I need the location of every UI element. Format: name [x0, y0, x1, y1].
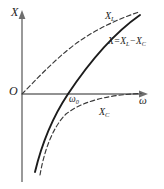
inductive-curve-label: XL: [105, 11, 115, 21]
capacitive-curve-label: XC: [99, 107, 110, 117]
inductive-curve-label-subscript: L: [111, 15, 115, 22]
reactance-axis-label: X: [11, 6, 18, 18]
equation-minus-xc: −X: [130, 36, 142, 46]
frequency-axis-label: ω: [139, 95, 147, 106]
origin-label: O: [9, 85, 18, 97]
resonance-tick-label-base: ω: [69, 94, 76, 104]
net-reactance-equation-label: X=XL−XC: [108, 37, 146, 47]
capacitive-curve-label-subscript: C: [105, 111, 109, 118]
resonance-tick-label-subscript: 0: [76, 98, 79, 105]
reactance-frequency-figure: X ω O XL XC ω0 X=XL−XC: [0, 0, 164, 189]
equation-equals-xl: =X: [114, 36, 126, 46]
equation-subscript-l: L: [126, 40, 130, 47]
reactance-axis-arrowhead: [19, 10, 26, 19]
resonance-tick-label: ω0: [69, 95, 79, 105]
curve-capacitive-reactance: [40, 93, 141, 175]
reactance-axis: [19, 10, 26, 182]
equation-subscript-c: C: [142, 40, 146, 47]
curve-inductive-reactance: [22, 12, 139, 94]
